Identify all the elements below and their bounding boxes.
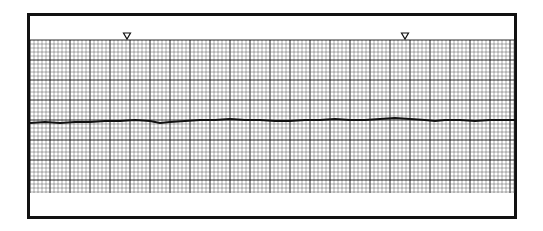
marker-triangle-icon [124, 33, 131, 39]
event-markers [124, 33, 409, 39]
chart-plot [0, 0, 543, 231]
grid [30, 40, 514, 193]
marker-triangle-icon [402, 33, 409, 39]
